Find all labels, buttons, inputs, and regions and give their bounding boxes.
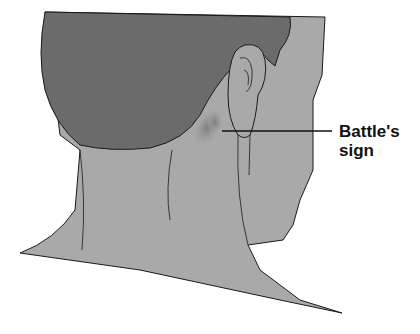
head-neck-drawing (0, 0, 420, 334)
annotation-line1: Battle's (339, 122, 400, 141)
annotation-line2: sign (339, 141, 400, 160)
annotation-label: Battle's sign (339, 122, 400, 160)
battles-sign-illustration: Battle's sign (0, 0, 420, 334)
